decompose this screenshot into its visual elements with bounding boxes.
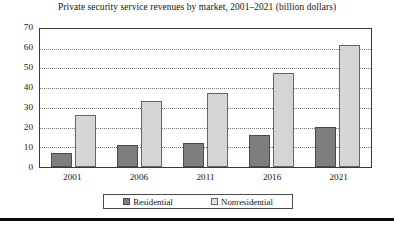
- bar-residential-2006[interactable]: [117, 145, 138, 167]
- bar-group-2006: [117, 29, 162, 167]
- bar-nonresidential-2016[interactable]: [273, 73, 294, 167]
- legend-label: Nonresidential: [221, 197, 273, 207]
- x-tick-label-2001: 2001: [39, 172, 106, 182]
- bar-group-2001: [51, 29, 96, 167]
- legend-label: Residential: [133, 197, 173, 207]
- x-tick-label-2016: 2016: [239, 172, 306, 182]
- y-tick-label: 0: [28, 163, 33, 172]
- legend-item-nonresidential[interactable]: Nonresidential: [211, 197, 273, 207]
- y-axis: 010203040506070: [0, 28, 36, 168]
- bar-group-2011: [183, 29, 228, 167]
- plot-area: [39, 28, 372, 168]
- bottom-divider: [0, 218, 394, 221]
- legend-item-residential[interactable]: Residential: [123, 197, 173, 207]
- chart-legend: ResidentialNonresidential: [103, 194, 293, 209]
- bar-residential-2011[interactable]: [183, 143, 204, 167]
- x-tick-label-2011: 2011: [172, 172, 239, 182]
- y-tick-label: 60: [24, 43, 33, 52]
- legend-swatch-icon-nonresidential: [211, 198, 218, 205]
- bar-residential-2016[interactable]: [249, 135, 270, 167]
- bar-nonresidential-2001[interactable]: [75, 115, 96, 167]
- y-tick-label: 20: [24, 123, 33, 132]
- y-tick-label: 40: [24, 83, 33, 92]
- y-tick-label: 70: [24, 23, 33, 32]
- y-tick-label: 10: [24, 143, 33, 152]
- bar-nonresidential-2006[interactable]: [141, 101, 162, 167]
- bar-series-container: [40, 29, 371, 167]
- chart-title: Private security service revenues by mar…: [0, 2, 394, 12]
- y-tick-label: 50: [24, 63, 33, 72]
- x-tick-label-2021: 2021: [305, 172, 372, 182]
- x-axis: 20012006201120162021: [39, 172, 372, 182]
- x-tick-label-2006: 2006: [106, 172, 173, 182]
- bar-group-2021: [315, 29, 360, 167]
- legend-swatch-icon-residential: [123, 198, 130, 205]
- bar-group-2016: [249, 29, 294, 167]
- bar-residential-2001[interactable]: [51, 153, 72, 167]
- bar-nonresidential-2021[interactable]: [339, 45, 360, 167]
- y-tick-label: 30: [24, 103, 33, 112]
- bar-nonresidential-2011[interactable]: [207, 93, 228, 167]
- bar-residential-2021[interactable]: [315, 127, 336, 167]
- chart-figure: Private security service revenues by mar…: [0, 0, 394, 230]
